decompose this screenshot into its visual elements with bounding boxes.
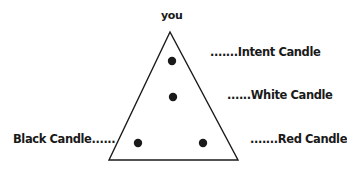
intent-candle-label: .......Intent Candle xyxy=(210,47,320,59)
black-candle-label: Black Candle...... xyxy=(13,134,115,146)
apex-label-you: you xyxy=(161,10,182,21)
red-candle-label: .......Red Candle xyxy=(250,134,347,146)
black-candle-dot xyxy=(134,139,142,147)
red-candle-dot xyxy=(199,139,207,147)
white-candle-dot xyxy=(169,93,177,101)
intent-candle-dot xyxy=(168,57,176,65)
white-candle-label: ......White Candle xyxy=(227,90,333,102)
